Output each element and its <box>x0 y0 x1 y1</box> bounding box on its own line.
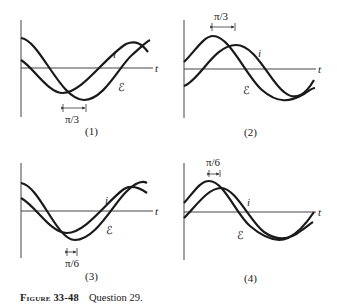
panel-1-phase-label: π/3 <box>65 114 79 125</box>
panel-1-axis-label: t <box>155 63 158 74</box>
panel-3-graph <box>21 163 153 258</box>
panel-4-emf-label: ℰ <box>237 230 244 241</box>
figure-caption-text: Question 29. <box>89 292 143 303</box>
panel-1-number: (1) <box>85 126 98 137</box>
panel-4-number: (4) <box>244 273 257 284</box>
panel-1-graph <box>21 20 153 117</box>
panel-1-current-label: i <box>113 49 116 60</box>
panel-2-current-label: i <box>258 48 261 59</box>
panel-4-graph <box>184 163 316 260</box>
panel-4-leading-curve <box>184 181 314 240</box>
panel-2-graph <box>184 20 316 118</box>
panel-2-number: (2) <box>244 127 257 138</box>
panel-4-axis-label: t <box>318 207 321 218</box>
panel-4-phase-label: π/6 <box>206 157 220 168</box>
panel-2-axis-label: t <box>318 64 321 75</box>
figure-graphics <box>0 0 337 308</box>
panel-3-axis-label: t <box>155 206 158 217</box>
panel-3-phase-label: π/6 <box>65 258 79 269</box>
panel-2-emf-label: ℰ <box>243 85 250 96</box>
panel-3-current-label: i <box>105 195 108 206</box>
panel-1-emf-curve <box>21 38 150 100</box>
panel-2-phase-label: π/3 <box>214 11 228 22</box>
panel-3-current-curve <box>21 187 147 233</box>
panel-4-current-label: i <box>247 197 250 208</box>
panel-1-emf-label: ℰ <box>118 82 125 93</box>
panel-3-emf-label: ℰ <box>106 225 113 236</box>
figure-caption-label: Figure 33-48 <box>20 292 79 303</box>
panel-3-number: (3) <box>85 271 98 282</box>
figure-caption: Figure 33-48Question 29. <box>20 292 143 303</box>
